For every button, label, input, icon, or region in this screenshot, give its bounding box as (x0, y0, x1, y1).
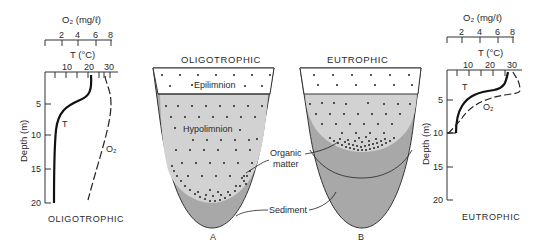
right-depth-tick: 10 (433, 128, 443, 138)
left-depth-label: Depth (m) (18, 120, 29, 162)
left-oxygen-curve (88, 76, 111, 200)
left-depth-tick: 15 (31, 164, 41, 174)
right-t-axis-label: T (°C) (478, 47, 503, 58)
right-depth-tick: 15 (433, 162, 443, 172)
organic-matter-label-line1: Organic (270, 148, 302, 158)
lake-b-eutrophic: EUTROPHIC B (300, 54, 421, 242)
right-depth-tick: 20 (433, 195, 443, 205)
lake-a-oligotrophic: OLIGOTROPHIC Epilimnion Hypolimnion (153, 54, 274, 242)
left-depth-tick: 5 (36, 99, 41, 109)
right-profile-chart: O₂ (mg/ℓ) 2 4 6 8 T (°C) 10 20 30 5 10 1… (420, 12, 522, 222)
lake-b-letter: B (358, 232, 364, 242)
left-t-curve-label: T (62, 119, 68, 129)
right-profile-caption: EUTROPHIC (462, 212, 520, 222)
lake-b-epilimnion (300, 68, 421, 94)
left-o2-tick: 6 (93, 30, 98, 40)
left-t-axis-label: T (°C) (70, 49, 95, 60)
left-o2-axis-label: O₂ (mg/ℓ) (62, 14, 101, 25)
right-depth-tick: 5 (438, 95, 443, 105)
left-o2-tick: 2 (59, 30, 64, 40)
left-depth-tick: 20 (31, 198, 41, 208)
lake-stratification-diagram: O₂ (mg/ℓ) 2 4 6 8 T (°C) 10 20 30 5 10 1… (0, 0, 545, 248)
sediment-label: Sediment (269, 205, 308, 215)
right-o2-tick: 2 (459, 27, 464, 37)
lake-a-letter: A (210, 232, 216, 242)
left-t-tick: 30 (104, 62, 114, 72)
right-t-curve-label: T (462, 82, 468, 92)
left-o2-tick: 4 (75, 30, 80, 40)
epilimnion-label: Epilimnion (194, 80, 236, 90)
organic-matter-label-line2: matter (273, 159, 299, 169)
right-t-tick: 30 (507, 60, 517, 70)
left-o2-curve-label: O₂ (106, 144, 117, 154)
lake-b-title: EUTROPHIC (327, 54, 388, 65)
right-o2-curve-label: O₂ (483, 102, 494, 112)
right-o2-tick: 6 (495, 27, 500, 37)
right-depth-label: Depth (m) (420, 123, 431, 165)
left-profile-caption: OLIGOTROPHIC (48, 214, 124, 224)
right-t-tick: 20 (485, 60, 495, 70)
sediment-pointer-a (236, 210, 268, 216)
lake-a-title: OLIGOTROPHIC (181, 54, 261, 65)
left-o2-tick: 8 (108, 30, 113, 40)
left-profile-chart: O₂ (mg/ℓ) 2 4 6 8 T (°C) 10 20 30 5 10 1… (18, 14, 124, 224)
right-o2-tick: 8 (510, 27, 515, 37)
left-t-tick: 20 (84, 62, 94, 72)
right-t-tick: 10 (463, 60, 473, 70)
left-temperature-curve (54, 75, 91, 203)
hypolimnion-label: Hypolimnion (183, 124, 233, 134)
left-t-tick: 10 (62, 62, 72, 72)
left-depth-tick: 10 (31, 130, 41, 140)
right-o2-tick: 4 (477, 27, 482, 37)
right-o2-axis-label: O₂ (mg/ℓ) (463, 12, 502, 23)
